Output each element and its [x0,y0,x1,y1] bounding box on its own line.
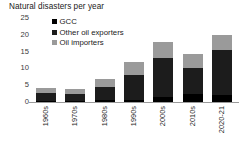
bar-2020-21[interactable] [212,35,232,102]
y-axis-tick-label: 15 [12,48,29,56]
x-axis: 1960s1970s1980s1990s2000s2010s2020-21 [31,104,237,144]
legend-swatch-gcc [52,19,57,24]
legend-swatch-other-oil-exporters [52,30,57,35]
legend-swatch-oil-importers [52,40,57,45]
segment-oil-importers [124,62,144,75]
segment-other-oil-exporters [183,68,203,94]
x-axis-tick: 1990s [124,104,144,144]
segment-other-oil-exporters [65,94,85,101]
segment-gcc [153,97,173,102]
segment-gcc [65,101,85,102]
y-axis-tick-label: 10 [12,64,29,72]
x-axis-tick-label: 2000s [159,106,167,126]
x-axis-tick: 2020-21 [212,104,232,144]
segment-oil-importers [183,54,203,69]
segment-gcc [183,94,203,102]
legend-item-oil-importers: Oil importers [52,38,124,47]
segment-other-oil-exporters [212,50,232,95]
segment-oil-importers [95,79,115,87]
x-axis-tick-label: 2020-21 [218,106,226,133]
bar-1970s[interactable] [65,89,85,102]
segment-gcc [36,101,56,102]
bar-1990s[interactable] [124,62,144,102]
legend-label-gcc: GCC [60,17,77,26]
x-axis-tick: 2010s [183,104,203,144]
x-axis-tick: 1980s [95,104,115,144]
x-axis-tick-label: 1980s [101,106,109,126]
legend-label-oil-importers: Oil importers [60,38,104,47]
y-axis-tick-label: 5 [12,81,29,89]
x-axis-tick: 1970s [65,104,85,144]
natural-disasters-bar-chart: Natural disasters per year 2520151050 19… [0,0,243,144]
segment-gcc [124,100,144,102]
segment-oil-importers [212,35,232,50]
segment-gcc [95,100,115,102]
legend-item-other-oil-exporters: Other oil exporters [52,28,124,37]
legend-item-gcc: GCC [52,17,124,26]
segment-other-oil-exporters [95,87,115,100]
legend-label-other-oil-exporters: Other oil exporters [60,28,124,37]
segment-other-oil-exporters [153,58,173,97]
segment-gcc [212,95,232,102]
x-axis-tick-label: 1990s [130,106,138,126]
y-axis-tick-label: 20 [12,31,29,39]
chart-title: Natural disasters per year [9,2,104,12]
segment-oil-importers [153,42,173,58]
bar-1960s[interactable] [36,88,56,102]
x-axis-tick: 2000s [153,104,173,144]
x-axis-tick-label: 1970s [71,106,79,126]
bar-1980s[interactable] [95,79,115,102]
y-axis-tick-label: 0 [12,98,29,106]
chart-legend: GCC Other oil exporters Oil importers [52,17,124,47]
y-axis-tick-label: 25 [12,14,29,22]
y-axis: 2520151050 [12,14,29,106]
x-axis-tick-label: 1960s [42,106,50,126]
bar-2010s[interactable] [183,54,203,102]
x-axis-baseline [29,102,239,103]
segment-other-oil-exporters [36,93,56,101]
segment-other-oil-exporters [124,75,144,101]
x-axis-tick: 1960s [36,104,56,144]
x-axis-tick-label: 2010s [189,106,197,126]
bar-2000s[interactable] [153,42,173,102]
